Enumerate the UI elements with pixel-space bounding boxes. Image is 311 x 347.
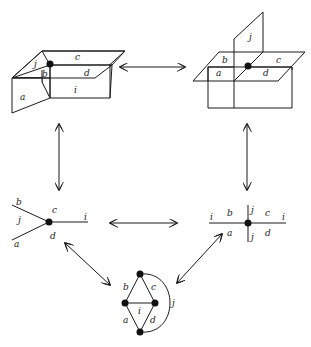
graph-vertex-top — [137, 271, 144, 278]
label-j: j — [170, 298, 175, 308]
label-i-right: i — [282, 212, 285, 222]
box-front-i — [50, 65, 112, 98]
label-c: c — [52, 205, 57, 215]
label-d: d — [50, 231, 56, 241]
label-i-left: i — [210, 212, 213, 222]
label-b: b — [227, 208, 233, 218]
label-b: b — [123, 282, 129, 292]
vertex-dot — [47, 61, 54, 68]
label-a: a — [216, 68, 221, 78]
graph-vertex-left — [122, 300, 129, 307]
label-i: i — [84, 212, 87, 222]
label-a: a — [14, 239, 19, 249]
label-a: a — [20, 92, 25, 102]
label-c: c — [276, 55, 281, 65]
vertex-mid-left: b j c i a d — [12, 197, 88, 249]
label-i: i — [138, 306, 141, 316]
arrow-left-diagonal — [65, 243, 110, 285]
graph-vertex-right — [152, 300, 159, 307]
vertex-dot — [245, 220, 252, 227]
label-b: b — [222, 55, 228, 65]
label-b: b — [16, 197, 22, 207]
label-j: j — [16, 215, 21, 225]
label-b: b — [42, 69, 48, 79]
flap-a — [12, 78, 50, 113]
box-top-left: c d j b a i — [12, 51, 125, 113]
vertex-dot — [46, 219, 53, 226]
graph-vertex-bottom — [137, 329, 144, 336]
label-c: c — [265, 208, 270, 218]
label-d: d — [150, 315, 156, 325]
label-d: d — [265, 228, 271, 238]
label-d: d — [263, 68, 269, 78]
label-a: a — [227, 228, 232, 238]
label-i: i — [74, 85, 77, 95]
label-d: d — [84, 68, 90, 78]
diagram-canvas: c d j b a i j b c a d b j c — [0, 0, 311, 347]
vertex-mid-right: i b j c i a j d — [209, 205, 286, 242]
box-top-right: j b c a d — [193, 12, 305, 108]
vertex-dot — [245, 63, 252, 70]
label-c: c — [151, 282, 156, 292]
label-j-top: j — [249, 205, 254, 215]
arrow-right-diagonal — [177, 234, 222, 283]
label-j-bottom: j — [249, 232, 254, 242]
graph-bottom: b c i a d j — [122, 271, 176, 336]
label-c: c — [75, 52, 80, 62]
label-a: a — [123, 315, 128, 325]
